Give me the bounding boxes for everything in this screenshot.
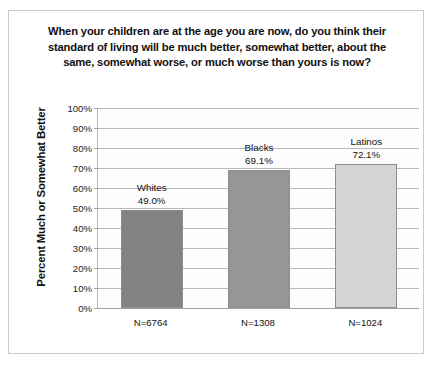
y-tick-label: 70% (48, 163, 92, 174)
bar-whites[interactable] (121, 210, 183, 308)
y-tick-mark (94, 228, 98, 229)
y-tick-mark (94, 248, 98, 249)
y-tick-mark (94, 288, 98, 289)
y-tick-label: 40% (48, 223, 92, 234)
y-tick-label: 50% (48, 203, 92, 214)
y-tick-label: 20% (48, 263, 92, 274)
y-tick-label: 80% (48, 143, 92, 154)
x-axis-labels: N=6764N=1308N=1024 (97, 317, 419, 333)
y-tick-label: 100% (48, 103, 92, 114)
y-tick-mark (94, 268, 98, 269)
y-axis-title: Percent Much or Somewhat Better (35, 87, 47, 307)
y-tick-mark (94, 208, 98, 209)
y-tick-label: 60% (48, 183, 92, 194)
y-tick-label: 0% (48, 303, 92, 314)
chart-frame: When your children are at the age you ar… (8, 10, 424, 354)
gridline (98, 308, 419, 309)
series-name-label: Whites (137, 181, 167, 194)
bar-annotation: Blacks69.1% (245, 141, 274, 167)
series-name-label: Blacks (245, 141, 274, 154)
bar-latinos[interactable] (335, 164, 397, 308)
bar-group: Blacks69.1% (228, 108, 290, 308)
bar-annotation: Whites49.0% (137, 181, 167, 207)
y-tick-label: 30% (48, 243, 92, 254)
y-tick-mark (94, 168, 98, 169)
y-tick-label: 10% (48, 283, 92, 294)
series-value-label: 49.0% (137, 194, 167, 207)
series-name-label: Latinos (351, 135, 383, 148)
y-tick-mark (94, 108, 98, 109)
bar-group: Latinos72.1% (335, 108, 397, 308)
plot-area: 0%10%20%30%40%50%60%70%80%90%100% Whites… (97, 108, 419, 308)
x-tick-label: N=1024 (348, 317, 382, 328)
y-tick-mark (94, 148, 98, 149)
bar-blacks[interactable] (228, 170, 290, 308)
series-value-label: 69.1% (245, 154, 274, 167)
chart-title: When your children are at the age you ar… (39, 24, 395, 71)
y-tick-mark (94, 128, 98, 129)
x-tick-label: N=1308 (241, 317, 275, 328)
bar-annotation: Latinos72.1% (351, 135, 383, 161)
y-tick-mark (94, 308, 98, 309)
y-tick-mark (94, 188, 98, 189)
series-value-label: 72.1% (351, 148, 383, 161)
x-tick-label: N=6764 (134, 317, 168, 328)
bar-group: Whites49.0% (121, 108, 183, 308)
y-tick-label: 90% (48, 123, 92, 134)
